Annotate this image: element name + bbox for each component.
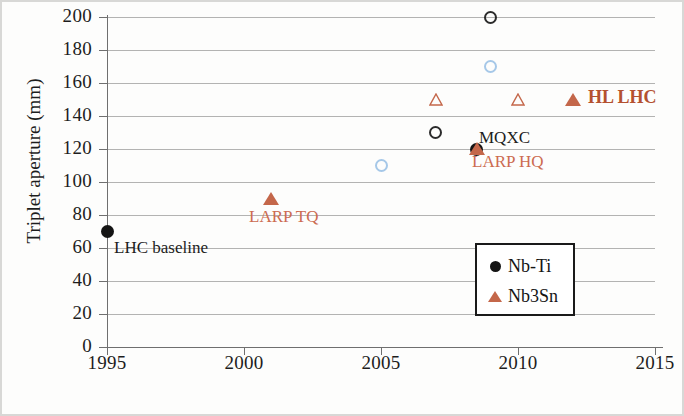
x-tick-label: 2015 — [610, 352, 684, 374]
legend-item-nbti: Nb-Ti — [485, 251, 573, 281]
y-tick — [99, 116, 108, 117]
y-tick-label: 200 — [30, 5, 92, 27]
legend-label-nbti: Nb-Ti — [508, 256, 551, 277]
data-point-nbti-open — [436, 133, 443, 140]
x-tick-label: 2010 — [473, 352, 563, 374]
circle-marker-icon — [485, 261, 505, 272]
scan-edge-left — [0, 0, 2, 416]
legend-item-nb3sn: Nb3Sn — [485, 281, 573, 311]
y-tick — [99, 281, 108, 282]
scatter-chart: 020406080100120140160180200 199520002005… — [0, 0, 684, 416]
y-tick — [99, 215, 108, 216]
data-point-nbti-filled — [107, 232, 114, 239]
gridline — [107, 215, 655, 216]
scan-edge-top — [0, 0, 684, 2]
x-tick-label: 1995 — [62, 352, 152, 374]
chart-legend: Nb-Ti Nb3Sn — [475, 243, 575, 316]
annotation-mqxc: MQXC — [479, 128, 530, 148]
y-tick — [99, 83, 108, 84]
gridline — [107, 83, 655, 84]
x-tick-label: 2005 — [336, 352, 426, 374]
gridline — [107, 50, 655, 51]
x-tick-label: 2000 — [199, 352, 289, 374]
annotation-larp-hq: LARP HQ — [472, 152, 544, 172]
triangle-marker-icon — [485, 291, 505, 302]
data-point-nbti-open — [491, 17, 498, 24]
y-axis-title: Triplet aperture (mm) — [23, 31, 45, 291]
annotation-hl-lhc: HL LHC — [588, 87, 657, 108]
y-tick — [99, 248, 108, 249]
data-point-nb3sn-filled — [573, 100, 581, 106]
y-tick-label: 20 — [30, 302, 92, 324]
gridline — [107, 17, 655, 18]
data-point-nb3sn-open — [518, 100, 525, 106]
y-tick — [99, 17, 108, 18]
y-tick — [99, 314, 108, 315]
y-tick — [99, 182, 108, 183]
gridline — [107, 149, 655, 150]
gridline — [107, 182, 655, 183]
annotation-larp-tq: LARP TQ — [249, 207, 318, 227]
legend-label-nb3sn: Nb3Sn — [508, 286, 558, 307]
data-point-nbti-open-light — [381, 166, 388, 173]
data-point-nb3sn-filled — [271, 199, 279, 205]
annotation-lhc-baseline: LHC baseline — [114, 238, 208, 258]
gridline — [107, 116, 655, 117]
y-tick — [99, 149, 108, 150]
data-point-nb3sn-open — [436, 100, 443, 106]
y-tick — [99, 50, 108, 51]
data-point-nbti-open-light — [491, 67, 498, 74]
